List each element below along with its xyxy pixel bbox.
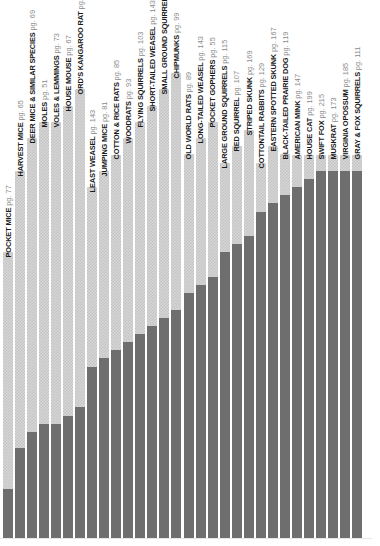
bar-deer-mice-similar-species[interactable] xyxy=(27,138,37,538)
bar-pocket-gophers[interactable] xyxy=(208,122,218,538)
bar-label: HARVEST MICE pg. 65 xyxy=(16,100,23,176)
bar-label: LARGE GROUND SQUIRRELS pg. 115 xyxy=(221,39,228,168)
bar-label: CHIPMUNKS pg. 99 xyxy=(173,12,180,78)
bar-label-name: AMERICAN MINK xyxy=(292,101,301,160)
bar-label-name: POCKET MICE xyxy=(3,208,12,258)
bar-ord-s-kangaroo-rat[interactable] xyxy=(75,89,85,538)
bar-label-name: LEAST WEASEL xyxy=(88,137,97,193)
bar-segment-dark xyxy=(135,334,145,538)
bar-cottontail-rabbits[interactable] xyxy=(256,163,266,538)
bar-label-name: WOODRATS xyxy=(124,101,133,143)
bar-label-page: pg. 129 xyxy=(256,62,265,87)
bar-large-ground-squirrels[interactable] xyxy=(220,163,230,538)
bar-house-mouse[interactable] xyxy=(63,106,73,538)
bar-segment-light xyxy=(280,154,290,195)
bar-long-tailed-weasel[interactable] xyxy=(196,138,206,538)
bar-label: AMERICAN MINK pg. 147 xyxy=(293,74,300,159)
bar-label: DEER MICE & SIMILAR SPECIES pg. 69 xyxy=(28,10,35,143)
bar-label-name: LONG-TAILED WEASEL xyxy=(196,63,205,144)
bar-segment-dark xyxy=(208,277,218,538)
bar-segment-dark xyxy=(304,179,314,538)
bar-label: WOODRATS pg. 93 xyxy=(125,79,132,144)
bar-label: VIRGINIA OPOSSUM pg. 185 xyxy=(341,63,348,160)
bar-segment-light xyxy=(208,122,218,277)
bar-label-name: HOUSE CAT xyxy=(304,118,313,160)
bar-label-name: MOLES xyxy=(40,102,49,128)
bar-segment-light xyxy=(244,130,254,236)
bar-old-world-rats[interactable] xyxy=(184,154,194,538)
bar-label: HOUSE CAT pg. 199 xyxy=(305,92,312,160)
bar-segment-dark xyxy=(123,342,133,538)
bar-label-page: pg. 77 xyxy=(3,186,12,207)
bar-pocket-mice[interactable] xyxy=(3,252,13,538)
bar-segment-dark xyxy=(159,318,169,538)
bar-segment-light xyxy=(184,154,194,293)
bar-segment-dark xyxy=(328,171,338,538)
bar-label-page: pg. 77 xyxy=(76,0,85,10)
bar-virginia-opossum[interactable] xyxy=(340,154,350,538)
bar-flying-squirrels[interactable] xyxy=(135,122,145,538)
bar-segment-light xyxy=(63,106,73,416)
bar-segment-dark xyxy=(87,367,97,538)
bar-label: STRIPED SKUNK pg. 169 xyxy=(245,50,252,135)
bar-label-page: pg. 65 xyxy=(15,100,24,121)
bar-label-name: SMALL GROUND SQUIRRELS xyxy=(160,0,169,95)
bar-segment-light xyxy=(111,155,121,351)
bar-label-page: pg. 215 xyxy=(316,94,325,119)
bar-label-name: COTTONTAIL RABBITS xyxy=(256,89,265,168)
bar-house-cat[interactable] xyxy=(304,154,314,538)
bar-segment-light xyxy=(99,171,109,359)
bar-label: RED SQUIRREL pg. 107 xyxy=(233,71,240,152)
bar-voles-lemmings[interactable] xyxy=(51,122,61,538)
bar-cotton-rice-rats[interactable] xyxy=(111,154,121,538)
bar-segment-dark xyxy=(27,432,37,538)
bar-segment-light xyxy=(27,138,37,432)
bar-label-name: VIRGINIA OPOSSUM xyxy=(340,90,349,160)
bar-segment-dark xyxy=(184,293,194,538)
bar-label-name: EASTERN SPOTTED SKUNK xyxy=(268,54,277,151)
bar-segment-light xyxy=(3,252,13,489)
bar-segment-dark xyxy=(244,236,254,538)
bar-segment-light xyxy=(220,163,230,253)
bar-black-tailed-prairie-dog[interactable] xyxy=(280,154,290,538)
bar-segment-dark xyxy=(256,212,266,538)
bar-label-name: OLD WORLD RATS xyxy=(184,95,193,160)
bar-label-page: pg. 143 xyxy=(196,36,205,61)
bar-harvest-mice[interactable] xyxy=(15,171,25,538)
bar-label-page: pg. 199 xyxy=(304,92,313,117)
bar-jumping-mice[interactable] xyxy=(99,171,109,538)
bar-segment-light xyxy=(75,89,85,407)
bar-label: POCKET MICE pg. 77 xyxy=(4,186,11,258)
bar-striped-skunk[interactable] xyxy=(244,130,254,538)
bar-label-name: MUSKRAT xyxy=(328,125,337,160)
bar-segment-dark xyxy=(220,252,230,538)
bar-small-ground-squirrels[interactable] xyxy=(159,89,169,538)
bar-label: MUSKRAT pg. 173 xyxy=(329,98,336,160)
bar-gray-fox-squirrels[interactable] xyxy=(352,154,362,538)
bar-segment-dark xyxy=(99,358,109,538)
bar-segment-light xyxy=(39,122,49,424)
bar-american-mink[interactable] xyxy=(292,154,302,538)
bar-red-squirrel[interactable] xyxy=(232,146,242,538)
bar-least-weasel[interactable] xyxy=(87,187,97,538)
bar-short-tailed-weasel[interactable] xyxy=(147,106,157,538)
bar-muskrat[interactable] xyxy=(328,154,338,538)
bar-label-page: pg. 147 xyxy=(292,74,301,99)
bar-segment-dark xyxy=(280,195,290,538)
bar-segment-dark xyxy=(147,326,157,538)
bar-woodrats[interactable] xyxy=(123,138,133,538)
bar-eastern-spotted-skunk[interactable] xyxy=(268,146,278,538)
bar-label: MOLES pg. 51 xyxy=(41,79,48,127)
bar-label-name: ORD'S KANGAROO RAT xyxy=(76,12,85,95)
bar-label-page: pg. 119 xyxy=(280,32,289,56)
bar-label: FLYING SQUIRRELS pg. 103 xyxy=(137,31,144,127)
bar-moles[interactable] xyxy=(39,122,49,538)
bar-swift-fox[interactable] xyxy=(316,154,326,538)
bar-chipmunks[interactable] xyxy=(171,73,181,538)
bar-label-name: HARVEST MICE xyxy=(15,122,24,176)
bar-segment-light xyxy=(196,138,206,285)
bar-segment-dark xyxy=(292,187,302,538)
bar-segment-light xyxy=(15,171,25,448)
bar-segment-dark xyxy=(352,171,362,538)
bar-segment-dark xyxy=(3,489,13,538)
